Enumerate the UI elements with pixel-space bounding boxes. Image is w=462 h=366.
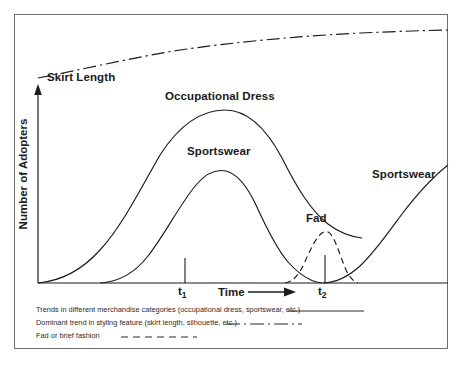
label-fad: Fad xyxy=(306,212,327,224)
label-skirt-length: Skirt Length xyxy=(47,71,115,83)
legend-sample-dash-dot xyxy=(226,323,302,325)
x-tick-label-t1: t1 xyxy=(178,285,187,300)
legend-sample-dashed xyxy=(121,336,197,338)
x-tick-label-t2: t2 xyxy=(318,285,327,300)
legend-label-dominant-trend: Dominant trend in styling feature (skirt… xyxy=(36,318,237,327)
legend-label-trends: Trends in different merchandise categori… xyxy=(36,305,300,314)
label-sportswear-first: Sportswear xyxy=(187,145,251,157)
legend-row-trends: Trends in different merchandise categori… xyxy=(36,305,436,316)
legend-row-dominant-trend: Dominant trend in styling feature (skirt… xyxy=(36,318,436,329)
legend: Trends in different merchandise categori… xyxy=(36,305,436,344)
legend-label-fad: Fad or brief fashion xyxy=(36,331,100,340)
y-axis xyxy=(34,84,42,283)
t2-subscript: 2 xyxy=(322,290,327,300)
sportswear-revival-curve xyxy=(323,165,448,283)
x-axis-label: Time xyxy=(218,286,245,298)
legend-sample-solid xyxy=(288,310,364,312)
t1-subscript: 1 xyxy=(182,290,187,300)
y-axis-label: Number of Adopters xyxy=(17,109,29,239)
chart-figure: Skirt Length Occupational Dress Sportswe… xyxy=(0,0,462,366)
time-axis-arrow xyxy=(248,287,296,296)
label-sportswear-revival: Sportswear xyxy=(372,168,436,180)
sportswear-first-curve xyxy=(100,171,322,283)
occupational-dress-curve xyxy=(38,110,362,283)
label-occupational-dress: Occupational Dress xyxy=(165,90,275,102)
legend-row-fad: Fad or brief fashion xyxy=(36,331,436,342)
